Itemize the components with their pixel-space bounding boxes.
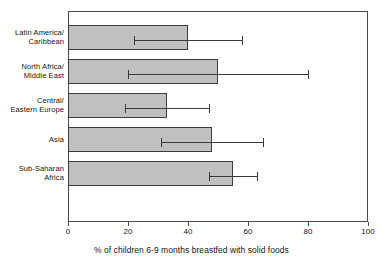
error-bar-line — [134, 40, 242, 41]
error-bar-cap-low — [128, 70, 129, 79]
bar — [68, 59, 218, 84]
chart-title-cropped — [0, 0, 383, 2]
x-axis-tick-label: 0 — [66, 227, 70, 237]
y-axis-label: Latin America/ Caribbean — [0, 28, 64, 47]
y-axis-label: Central/ Eastern Europe — [0, 96, 64, 115]
y-axis-label: Sub-Saharan Africa — [0, 164, 64, 183]
error-bar-cap-high — [209, 104, 210, 113]
bar — [68, 127, 212, 152]
bar — [68, 25, 188, 50]
error-bar-cap-high — [242, 36, 243, 45]
error-bar-cap-low — [125, 104, 126, 113]
x-axis-title: % of children 6-9 months breastfed with … — [0, 245, 383, 256]
error-bar-cap-high — [308, 70, 309, 79]
y-axis-label: Asia — [0, 135, 64, 145]
error-bar-line — [209, 176, 257, 177]
bar-chart: Latin America/ CaribbeanNorth Africa/ Mi… — [0, 0, 383, 262]
error-bar-cap-high — [263, 138, 264, 147]
error-bar-cap-low — [161, 138, 162, 147]
x-axis-tick-mark — [68, 222, 69, 226]
error-bar-cap-high — [257, 172, 258, 181]
x-axis-tick-label: 40 — [184, 227, 193, 237]
y-axis-label: North Africa/ Middle East — [0, 62, 64, 81]
error-bar-cap-low — [134, 36, 135, 45]
x-axis-tick-mark — [368, 222, 369, 226]
x-axis-tick-label: 100 — [361, 227, 374, 237]
error-bar-line — [125, 108, 209, 109]
error-bar-line — [128, 74, 308, 75]
x-axis-tick-mark — [248, 222, 249, 226]
bar — [68, 93, 167, 118]
x-axis-tick-label: 80 — [304, 227, 313, 237]
x-axis-tick-mark — [128, 222, 129, 226]
x-axis-tick-label: 60 — [244, 227, 253, 237]
error-bar-cap-low — [209, 172, 210, 181]
x-axis-tick-mark — [188, 222, 189, 226]
plot-surface — [68, 11, 368, 222]
error-bar-line — [161, 142, 263, 143]
x-axis-tick-mark — [308, 222, 309, 226]
x-axis-tick-label: 20 — [124, 227, 133, 237]
